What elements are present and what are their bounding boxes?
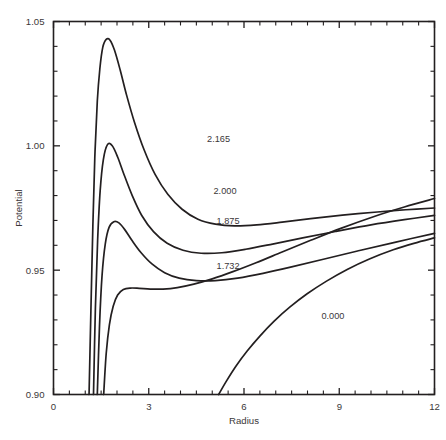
x-tick-label: 0 xyxy=(51,401,56,412)
x-axis-title: Radius xyxy=(229,415,259,426)
x-tick-labels: 036912 xyxy=(51,401,440,412)
y-tick-label: 0.90 xyxy=(26,389,45,400)
x-tick-label: 3 xyxy=(146,401,151,412)
y-tick-label: 0.95 xyxy=(26,265,45,276)
curve-1-732 xyxy=(104,199,435,395)
x-tick-label: 6 xyxy=(241,401,246,412)
y-axis-ticks-left xyxy=(54,22,61,395)
curve-label-group: 2.1652.0001.8751.7320.000 xyxy=(207,134,344,321)
curve-label-1-732: 1.732 xyxy=(217,261,240,271)
curve-2-165 xyxy=(89,39,434,395)
chart-figure: 2.1652.0001.8751.7320.000 036912 0.900.9… xyxy=(0,0,446,440)
x-axis-ticks-bottom xyxy=(54,388,435,395)
curve-label-2-165: 2.165 xyxy=(207,134,230,144)
x-axis-ticks-top xyxy=(54,22,435,29)
y-tick-labels: 0.900.951.001.05 xyxy=(26,16,45,400)
curve-label-2-000: 2.000 xyxy=(214,186,237,196)
curve-group xyxy=(89,39,434,395)
x-tick-label: 9 xyxy=(337,401,342,412)
y-tick-label: 1.05 xyxy=(26,16,45,27)
y-axis-title: Potential xyxy=(13,189,24,226)
curve-label-1-875: 1.875 xyxy=(217,216,240,226)
curve-2-000 xyxy=(94,143,435,394)
curve-1-875 xyxy=(97,221,434,394)
axis-frame xyxy=(54,22,435,395)
x-tick-label: 12 xyxy=(429,401,440,412)
y-tick-label: 1.00 xyxy=(26,140,45,151)
plot-frame xyxy=(54,22,435,395)
effective-potential-chart: 2.1652.0001.8751.7320.000 036912 0.900.9… xyxy=(0,0,446,440)
curve-label-0-000: 0.000 xyxy=(321,311,344,321)
